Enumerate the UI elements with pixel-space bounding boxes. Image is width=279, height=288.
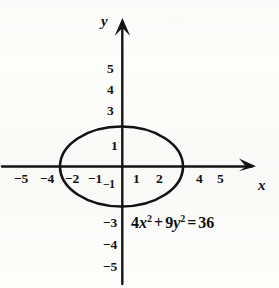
y-tick-label-3: 3 — [107, 104, 114, 118]
x-tick-label-1: 1 — [133, 172, 140, 186]
y-axis-label: y — [101, 14, 108, 29]
x-tick-label--4: −4 — [40, 172, 54, 186]
equation-plus-operator: + — [152, 214, 165, 231]
y-tick-label-5: 5 — [107, 62, 114, 76]
y-tick-label-1: 1 — [111, 139, 118, 153]
x-axis-label: x — [258, 178, 266, 193]
equation-annotation: 4x2+9y2=36 — [131, 215, 214, 231]
equation-rhs: 36 — [198, 214, 214, 231]
ellipse-graph-figure: −5 −4 −2 −1 1 2 4 5 5 4 3 1 −1 −3 −4 −5 … — [0, 0, 279, 288]
equation-coef-x: 4 — [131, 214, 139, 231]
y-tick-label-4: 4 — [107, 83, 114, 97]
x-axis — [2, 159, 256, 172]
x-tick-label--1: −1 — [88, 172, 102, 186]
x-tick-label--2: −2 — [65, 172, 79, 186]
y-tick-label--3: −3 — [103, 216, 117, 230]
y-tick-label--5: −5 — [103, 260, 117, 274]
x-axis-arrowhead-icon — [239, 159, 256, 172]
x-tick-label-5: 5 — [217, 172, 224, 186]
x-tick-label-4: 4 — [196, 172, 203, 186]
y-tick-label--4: −4 — [103, 238, 117, 252]
coordinate-plane-svg — [0, 0, 279, 288]
equation-var-x: x — [139, 214, 147, 231]
y-tick-label--1: −1 — [103, 179, 115, 191]
equation-coef-y: 9 — [165, 214, 173, 231]
x-tick-label-2: 2 — [156, 172, 163, 186]
x-tick-label--5: −5 — [14, 172, 28, 186]
equation-equals-operator: = — [185, 214, 198, 231]
